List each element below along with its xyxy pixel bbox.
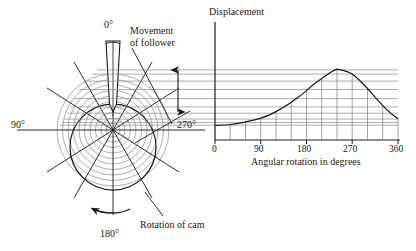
cam-label-90deg: 90°: [11, 119, 25, 131]
chart-y-axis-title: Displacement: [209, 6, 264, 18]
chart-xtick-180: 180: [297, 144, 311, 155]
chart-xtick-360: 360: [389, 144, 403, 155]
chart-xtick-90: 90: [254, 144, 264, 155]
chart-x-axis-title: Angular rotation in degrees: [251, 156, 361, 168]
chart-xtick-270: 270: [343, 144, 357, 155]
rotation-of-cam-arrow: [92, 209, 130, 214]
movement-of-follower-label-line2: of follower: [130, 37, 175, 49]
rotation-of-cam-label: Rotation of cam: [140, 219, 204, 231]
cam-label-180deg: 180°: [100, 228, 119, 240]
cam-label-0deg: 0°: [104, 19, 113, 31]
chart-vertical-gridlines: [230, 69, 398, 140]
cam-label-270deg: 270°: [177, 119, 196, 131]
figure-canvas: 0° 90° 270° 180° Rotation of cam Movemen…: [0, 0, 416, 251]
cam-displacement-figure: [0, 0, 416, 251]
movement-of-follower-label-line1: Movement: [130, 25, 173, 37]
rotation-of-cam-leader: [145, 192, 163, 216]
chart-xtick-0: 0: [212, 144, 217, 155]
